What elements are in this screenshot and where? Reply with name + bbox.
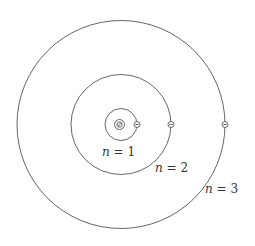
electron-icon-orbit-1 [134, 122, 140, 128]
label-orbit-3: n = 3 [205, 182, 238, 196]
label-orbit-2-eq: = 2 [163, 161, 188, 175]
nucleus-icon [115, 120, 125, 130]
electron-icon-orbit-2 [168, 122, 174, 128]
label-orbit-3-var: n [205, 182, 213, 196]
label-orbit-1: n = 1 [102, 145, 135, 159]
bohr-model-diagram: n = 1 n = 2 n = 3 [0, 0, 255, 246]
label-orbit-1-eq: = 1 [110, 145, 135, 159]
electron-icon-orbit-3 [222, 122, 228, 128]
label-orbit-2: n = 2 [155, 161, 188, 175]
label-orbit-2-var: n [155, 161, 163, 175]
label-orbit-1-var: n [102, 145, 110, 159]
label-orbit-3-eq: = 3 [213, 182, 238, 196]
